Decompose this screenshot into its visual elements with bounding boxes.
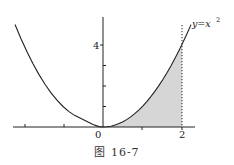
origin-label: 0 bbox=[95, 129, 101, 140]
parabola-curve bbox=[15, 25, 103, 127]
plot: 4 0 2 y=x 2 bbox=[0, 0, 234, 165]
y-tick-label-4: 4 bbox=[93, 40, 99, 51]
figure-caption: 图 16-7 bbox=[0, 143, 234, 159]
curve-label-exponent: 2 bbox=[216, 16, 220, 24]
x-tick-label-2: 2 bbox=[179, 129, 185, 140]
shaded-area bbox=[103, 45, 182, 127]
curve-label: y=x bbox=[191, 18, 211, 29]
